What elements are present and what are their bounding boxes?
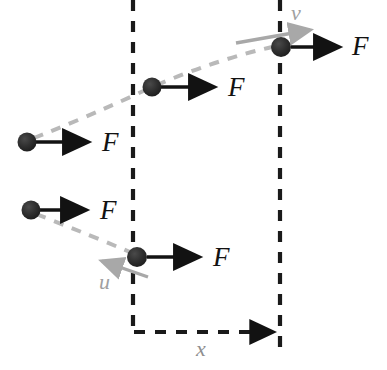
boundary-lines (133, 0, 280, 352)
force-label-lower-start: F (100, 197, 117, 224)
lower-trajectory-path (36, 214, 137, 255)
particle-upper-middle (143, 78, 162, 97)
diagram-canvas (0, 0, 387, 370)
physics-diagram: F F F F F v u x (0, 0, 387, 370)
force-arrows (36, 47, 339, 257)
force-label-lower-end: F (213, 244, 230, 271)
particle-lower-start (22, 201, 41, 220)
particles (18, 37, 292, 267)
particle-lower-end (127, 247, 147, 267)
force-label-upper-start: F (102, 129, 119, 156)
force-label-upper-end: F (352, 33, 369, 60)
velocity-label-initial: u (99, 271, 110, 293)
particle-upper-start (18, 133, 37, 152)
particle-upper-end (271, 37, 291, 57)
displacement-label: x (196, 338, 206, 360)
force-label-upper-middle: F (228, 74, 245, 101)
velocity-label-final: v (291, 2, 301, 24)
